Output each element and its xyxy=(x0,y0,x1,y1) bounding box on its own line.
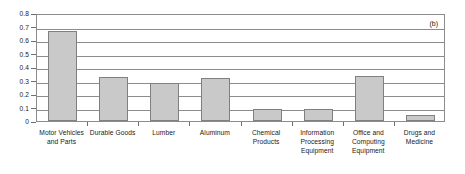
y-axis-tick-label: 0.4 xyxy=(20,63,29,73)
y-axis-tick: 0.7 xyxy=(0,23,36,33)
y-axis-tick: 0.8 xyxy=(0,9,36,19)
bar xyxy=(355,76,384,121)
y-axis-tick: 0.4 xyxy=(0,63,36,73)
x-axis-category-label-line: Medicine xyxy=(388,137,451,146)
x-axis-tick-mark xyxy=(138,122,139,126)
bars-group xyxy=(37,15,444,121)
panel-annotation-label: (b) xyxy=(429,19,438,28)
x-axis-tick-mark xyxy=(292,122,293,126)
y-axis-tick: 0.1 xyxy=(0,104,36,114)
y-axis-tick: 0.2 xyxy=(0,90,36,100)
bar xyxy=(304,109,333,121)
bar-chart-figure: 0.80.70.60.50.40.30.20.10 (b) Motor Vehi… xyxy=(0,0,465,174)
y-axis-tick-label: 0.8 xyxy=(20,9,29,19)
x-axis-tick-mark xyxy=(343,122,344,126)
y-axis-tick: 0.3 xyxy=(0,77,36,87)
x-axis-tick-mark xyxy=(241,122,242,126)
x-axis-tick-mark xyxy=(394,122,395,126)
bar xyxy=(253,109,282,121)
y-axis-tick-label: 0 xyxy=(25,117,29,127)
y-axis-tick: 0 xyxy=(0,117,36,127)
x-axis-ticks xyxy=(36,122,445,127)
x-axis-tick-mark xyxy=(189,122,190,126)
bar xyxy=(99,77,128,121)
y-axis-tick-label: 0.3 xyxy=(20,77,29,87)
y-axis: 0.80.70.60.50.40.30.20.10 xyxy=(0,0,36,136)
y-axis-tick-label: 0.7 xyxy=(20,23,29,33)
y-axis-tick: 0.6 xyxy=(0,36,36,46)
bar xyxy=(48,31,77,121)
y-axis-tick-label: 0.5 xyxy=(20,50,29,60)
y-axis-tick-label: 0.1 xyxy=(20,104,29,114)
x-axis-category-label: Drugs andMedicine xyxy=(388,128,451,146)
y-axis-tick: 0.5 xyxy=(0,50,36,60)
bar xyxy=(406,115,435,121)
plot-area: (b) xyxy=(36,14,445,122)
x-axis-category-label-line: Drugs and xyxy=(388,128,451,137)
y-axis-tick-label: 0.2 xyxy=(20,90,29,100)
x-axis-category-labels: Motor Vehiclesand PartsDurable GoodsLumb… xyxy=(36,128,445,174)
x-axis-category-label-line: and Parts xyxy=(30,137,93,146)
bar xyxy=(201,78,230,121)
bar xyxy=(150,83,179,121)
x-axis-tick-mark xyxy=(87,122,88,126)
x-axis-category-label-line: Equipment xyxy=(337,146,400,155)
y-axis-tick-label: 0.6 xyxy=(20,36,29,46)
